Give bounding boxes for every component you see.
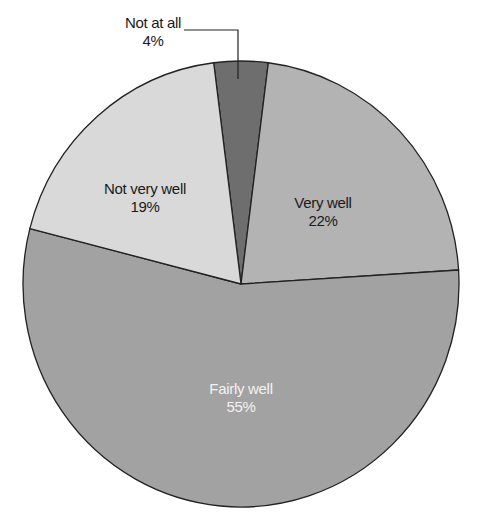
label-fairly-well: Fairly well 55% bbox=[196, 380, 286, 416]
label-very-well: Very well 22% bbox=[283, 194, 363, 230]
pie-chart bbox=[0, 0, 481, 527]
label-not-at-all: Not at all 4% bbox=[118, 14, 188, 50]
slice-very-well bbox=[241, 63, 459, 284]
label-not-very-well: Not very well 19% bbox=[93, 180, 197, 216]
